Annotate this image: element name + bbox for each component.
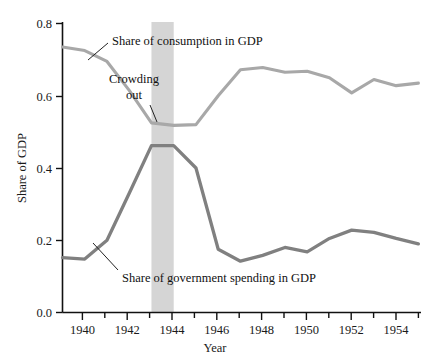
xtick-label-1948: 1948 [249,323,274,337]
ytick-label-0: 0.0 [36,306,52,320]
x-axis-ticks [82,313,418,321]
y-axis-title: Share of GDP [15,133,29,203]
crowding-out-label-line1: Crowding [109,72,160,86]
xtick-label-1954: 1954 [384,323,410,337]
y-axis-ticks [56,24,63,313]
consumption-series-label: Share of consumption in GDP [112,34,263,48]
ytick-label-2: 0.4 [36,162,52,176]
ytick-label-4: 0.8 [36,17,52,31]
ytick-label-3: 0.6 [36,90,52,104]
xtick-label-1940: 1940 [70,323,95,337]
chart-figure: 0.0 0.2 0.4 0.6 0.8 1940 1942 1944 [0,0,440,357]
crowding-out-label-line2: out [126,88,143,102]
xtick-label-1944: 1944 [160,323,186,337]
series-line-consumption [63,47,419,125]
xtick-label-1950: 1950 [294,323,319,337]
xtick-label-1942: 1942 [115,323,140,337]
crowding-out-band [151,22,173,312]
government-series-label: Share of government spending in GDP [122,271,316,285]
xtick-label-1946: 1946 [204,323,229,337]
ytick-label-1: 0.2 [36,234,52,248]
x-axis-title: Year [203,341,227,355]
government-leader-line [93,243,118,270]
line-chart-svg: 0.0 0.2 0.4 0.6 0.8 1940 1942 1944 [0,0,440,357]
series-line-government-spending [63,146,419,262]
xtick-label-1952: 1952 [339,323,364,337]
